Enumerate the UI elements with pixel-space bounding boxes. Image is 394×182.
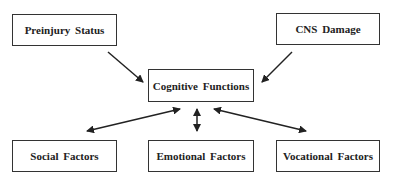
- node-label: Vocational Factors: [283, 150, 373, 162]
- arrow-preinjury-to-cognitive: [108, 52, 143, 82]
- node-label: Cognitive Functions: [153, 80, 249, 92]
- node-cns-damage: CNS Damage: [276, 13, 380, 45]
- arrow-cognitive-social: [87, 109, 180, 131]
- node-label: Preinjury Status: [25, 24, 105, 36]
- node-label: CNS Damage: [295, 23, 360, 35]
- node-vocational-factors: Vocational Factors: [276, 140, 380, 172]
- node-label: Emotional Factors: [156, 150, 245, 162]
- arrow-cns-to-cognitive: [262, 52, 292, 82]
- node-social-factors: Social Factors: [12, 140, 117, 172]
- node-cognitive-functions: Cognitive Functions: [148, 69, 254, 102]
- node-emotional-factors: Emotional Factors: [148, 140, 254, 172]
- arrow-cognitive-vocational: [214, 109, 306, 131]
- node-preinjury-status: Preinjury Status: [12, 14, 117, 46]
- node-label: Social Factors: [30, 150, 98, 162]
